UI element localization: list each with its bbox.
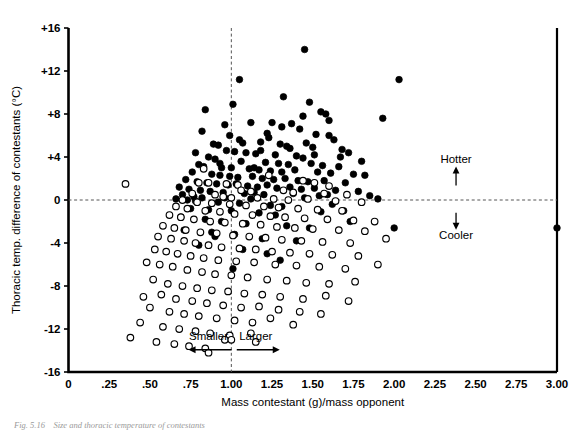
y-tick-label: 0 [54, 194, 60, 206]
data-point-open [215, 257, 222, 264]
data-point-open [191, 216, 198, 223]
x-tick-label: .75 [183, 378, 200, 390]
x-tick-label: 1.25 [261, 378, 284, 390]
data-point-filled [262, 159, 269, 166]
data-point-open [218, 244, 225, 251]
y-tick-label: -16 [44, 366, 61, 378]
x-tick-label: 1.50 [302, 378, 324, 390]
tick-labels-group: 0.25.50.751.001.251.501.752.002.252.502.… [41, 22, 568, 390]
data-point-open [292, 225, 299, 232]
data-point-open [127, 334, 134, 341]
data-point-filled [257, 139, 264, 146]
data-point-open [239, 220, 246, 227]
annotation-label-larger: Larger [239, 330, 272, 342]
data-point-open [205, 242, 212, 249]
data-point-filled [215, 142, 222, 149]
data-point-open [321, 190, 328, 197]
data-point-filled [296, 126, 303, 133]
x-tick-label: .50 [142, 378, 158, 390]
data-point-open [171, 225, 178, 232]
annotation-label-hotter: Hotter [440, 153, 471, 165]
data-point-filled [230, 101, 237, 108]
data-point-open [212, 191, 219, 198]
data-point-filled [362, 172, 369, 179]
data-point-open [195, 180, 202, 187]
data-point-open [179, 197, 186, 204]
data-point-open [296, 309, 303, 316]
data-point-open [192, 240, 199, 247]
data-point-open [187, 253, 194, 260]
data-point-open [233, 258, 240, 265]
data-point-open [300, 177, 307, 184]
data-point-filled [342, 180, 349, 187]
data-point-open [350, 217, 357, 224]
data-point-filled [279, 124, 286, 131]
data-point-filled [249, 173, 256, 180]
data-point-filled [355, 188, 362, 195]
data-point-open [223, 181, 230, 188]
data-point-open [194, 199, 201, 206]
data-point-open [293, 262, 300, 269]
data-point-filled [287, 145, 294, 152]
data-point-open [181, 238, 188, 245]
y-tick-label: -12 [44, 323, 61, 335]
data-point-filled [235, 174, 242, 181]
data-point-open [122, 181, 129, 188]
data-point-open [329, 252, 336, 259]
data-point-filled [251, 164, 258, 171]
data-point-filled [230, 266, 237, 273]
x-tick-label: 2.50 [464, 378, 486, 390]
data-point-open [336, 227, 343, 234]
data-point-open [220, 302, 227, 309]
data-point-open [244, 274, 251, 281]
data-point-open [226, 201, 233, 208]
data-point-filled [182, 176, 189, 183]
data-point-filled [243, 149, 250, 156]
y-tick-label: +4 [47, 151, 61, 163]
figure-caption: Fig. 5.16 Size and thoracic temperature … [14, 420, 574, 430]
y-tick-label: +12 [41, 65, 61, 77]
caption-text: Size and thoracic temperature of contest… [53, 420, 204, 430]
data-point-filled [275, 160, 282, 167]
data-point-open [178, 214, 185, 221]
data-point-filled [396, 76, 403, 83]
data-point-filled [336, 163, 343, 170]
data-point-open [238, 187, 245, 194]
data-point-open [168, 235, 175, 242]
data-point-filled [339, 146, 346, 153]
data-point-open [287, 249, 294, 256]
data-point-open [332, 198, 339, 205]
data-point-open [158, 291, 165, 298]
data-point-filled [208, 171, 215, 178]
data-point-open [326, 183, 333, 190]
x-tick-label: .25 [101, 378, 118, 390]
data-point-filled [261, 191, 268, 198]
data-point-filled [313, 131, 320, 138]
data-point-open [228, 195, 235, 202]
data-point-open [236, 245, 243, 252]
data-point-filled [265, 134, 272, 141]
data-point-filled [269, 119, 276, 126]
data-point-open [160, 324, 167, 331]
data-point-open [140, 293, 147, 300]
data-point-filled [197, 187, 204, 194]
data-point-filled [236, 137, 243, 144]
data-point-filled [293, 153, 300, 160]
annotation-arrow-head-hotter [453, 166, 460, 173]
data-point-open [243, 202, 250, 209]
data-point-open [251, 259, 258, 266]
data-point-open [277, 293, 284, 300]
data-point-filled [311, 152, 318, 159]
data-point-open [231, 317, 238, 324]
figure-container: 0.25.50.751.001.251.501.752.002.252.502.… [0, 0, 582, 435]
data-point-open [160, 223, 167, 230]
data-point-open [272, 261, 279, 268]
x-tick-label: 2.25 [424, 378, 447, 390]
data-point-open [204, 300, 211, 307]
data-point-open [319, 239, 326, 246]
data-point-filled [226, 173, 233, 180]
data-point-open [261, 203, 268, 210]
x-tick-label: 1.75 [342, 378, 365, 390]
data-point-open [275, 306, 282, 313]
data-point-open [262, 234, 269, 241]
